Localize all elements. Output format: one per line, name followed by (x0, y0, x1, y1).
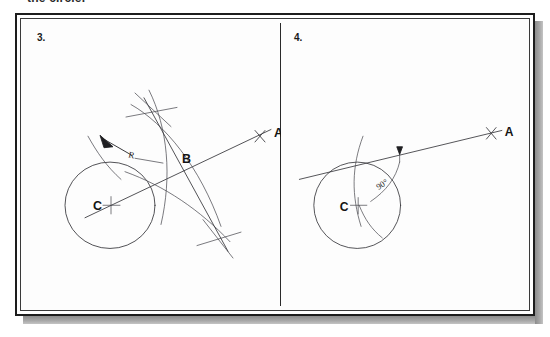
panel-4-label-c: C (340, 200, 349, 214)
panel-4-angle-label: 90° (374, 176, 390, 191)
panel-4-drawing: 90° A C (282, 23, 525, 306)
figure-frame-inner-border: 3. (20, 18, 530, 311)
figure-shadow-bottom (23, 316, 543, 324)
page-caption-text: the circle. (27, 0, 85, 5)
panel-3-label-a: A (274, 126, 281, 140)
construction-panel-3: 3. (25, 23, 281, 306)
panel-3-perpendicular-bisector (144, 98, 228, 251)
panel-4-label-a: A (505, 125, 514, 139)
panel-3-radius-leader-tail (135, 158, 163, 163)
panel-3-arc-from-A-lower (125, 172, 230, 242)
panel-3-label-b: B (182, 152, 191, 166)
panel-4-tangent-line (299, 130, 502, 179)
panel-3-radius-label: R (128, 150, 136, 161)
panel-3-label-c: C (93, 199, 102, 213)
panel-3-svg: R A B C (25, 23, 281, 306)
panel-4-svg: 90° A C (282, 23, 525, 306)
panel-4-right-angle-arrowhead (397, 147, 403, 155)
panel-3-arc-from-A-upper (131, 105, 221, 227)
panel-3-line-CA (85, 129, 271, 217)
panel-3-drawing: R A B C (25, 23, 281, 306)
panel-3-radius-arrowhead (100, 135, 113, 147)
panel-3-arc-from-C-upper (149, 90, 167, 224)
page-caption-strip: the circle. (0, 0, 550, 11)
figure-shadow-right (535, 21, 543, 324)
construction-panel-4: 4. (282, 23, 525, 306)
figure-frame: 3. (15, 13, 535, 316)
panel-4-radius-tail (359, 205, 382, 238)
